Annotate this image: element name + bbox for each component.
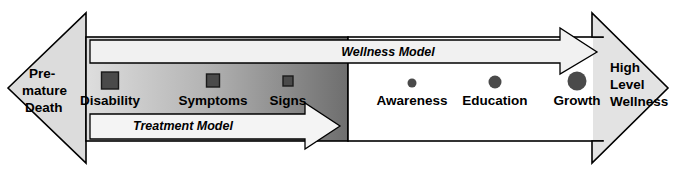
wellness-model-label: Wellness Model	[341, 45, 435, 59]
treatment-model-label: Treatment Model	[133, 119, 233, 133]
high-level-wellness-line-3: Wellness	[610, 94, 668, 109]
marker-label-disability: Disability	[80, 93, 141, 108]
marker-square-symptoms	[207, 74, 220, 87]
high-level-wellness-line-2: Level	[610, 77, 645, 92]
marker-square-signs	[283, 76, 293, 86]
high-level-wellness-line-1: High	[610, 60, 640, 75]
marker-label-education: Education	[462, 93, 527, 108]
marker-circle-awareness	[408, 79, 417, 88]
illness-wellness-continuum-diagram: Wellness Model Treatment Model Disabilit…	[0, 0, 674, 174]
marker-label-symptoms: Symptoms	[178, 93, 247, 108]
premature-death-line-2: mature	[22, 83, 68, 98]
marker-square-disability	[102, 72, 119, 89]
marker-label-signs: Signs	[270, 93, 307, 108]
marker-circle-education	[489, 76, 502, 89]
continuum-svg: Wellness Model Treatment Model Disabilit…	[0, 0, 674, 174]
marker-label-growth: Growth	[553, 93, 600, 108]
marker-circle-growth	[568, 72, 587, 91]
premature-death-line-3: Death	[25, 100, 63, 115]
premature-death-line-1: Pre-	[29, 66, 55, 81]
marker-label-awareness: Awareness	[376, 93, 447, 108]
